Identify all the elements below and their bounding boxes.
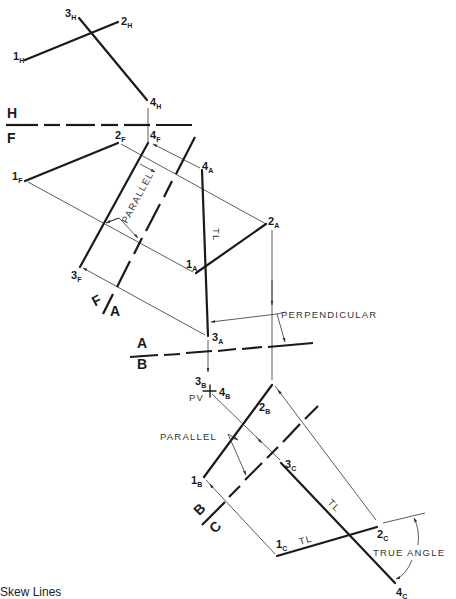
- fold-label-b2: B: [190, 500, 208, 518]
- perpendicular-note: PERPENDICULAR: [211, 309, 377, 342]
- fold-line-h-f: H F: [6, 105, 192, 146]
- label-1h: 1H: [13, 50, 24, 64]
- label-4b: 4B: [219, 386, 230, 400]
- line-1h-2h: [25, 22, 118, 60]
- fold-label-f: F: [7, 130, 16, 146]
- perpendicular-label: PERPENDICULAR: [281, 309, 377, 320]
- parallel-label-2: PARALLEL: [160, 431, 217, 442]
- label-4c: 4C: [396, 586, 407, 599]
- parallel-label-1: PARALLEL: [119, 169, 155, 224]
- fold-label-f2: F: [89, 291, 104, 309]
- line-4a-3a: [202, 170, 208, 336]
- line-3c-4c: [281, 463, 395, 583]
- label-3a: 3A: [212, 331, 223, 345]
- label-3b: 3B: [195, 375, 206, 389]
- label-4a: 4A: [202, 160, 213, 174]
- label-2c: 2C: [377, 528, 388, 542]
- label-2f: 2F: [115, 129, 126, 143]
- horizontal-view: 1H 2H 3H 4H: [13, 7, 161, 143]
- label-2h: 2H: [121, 15, 132, 29]
- label-2a: 2A: [268, 215, 279, 229]
- label-1b: 1B: [191, 474, 202, 488]
- label-1c: 1C: [276, 538, 287, 552]
- true-angle-note: TRUE ANGLE: [373, 513, 445, 579]
- pv-label: PV: [189, 392, 204, 403]
- line-1f-2f: [25, 143, 118, 181]
- true-angle-label: TRUE ANGLE: [373, 547, 445, 558]
- skew-lines-diagram: 1H 2H 3H 4H H F 2F 4F 1F 3F: [0, 0, 456, 599]
- fold-label-h: H: [7, 105, 17, 121]
- label-1f: 1F: [12, 170, 23, 184]
- label-3h: 3H: [65, 7, 76, 21]
- label-1a: 1A: [186, 258, 197, 272]
- fold-line-f-a: F A: [89, 137, 195, 319]
- fold-label-a2: A: [137, 335, 147, 351]
- fold-label-c: C: [206, 518, 224, 536]
- auxiliary-view-c: 3C 2C 1C 4C TL TL: [276, 458, 407, 599]
- tl-label-c-12: TL: [298, 533, 314, 547]
- line-1c-2c: [277, 527, 377, 556]
- label-4h: 4H: [150, 96, 161, 110]
- label-3f: 3F: [71, 269, 82, 283]
- line-1a-2a: [196, 224, 266, 273]
- figure-caption: Skew Lines: [0, 585, 61, 599]
- label-4f: 4F: [150, 129, 161, 143]
- label-3c: 3C: [285, 458, 296, 472]
- fold-label-a: A: [110, 303, 120, 319]
- fold-label-b: B: [137, 356, 147, 372]
- tl-label-a: TL: [211, 228, 222, 242]
- label-2b: 2B: [259, 401, 270, 415]
- line-3h-4h: [79, 18, 147, 100]
